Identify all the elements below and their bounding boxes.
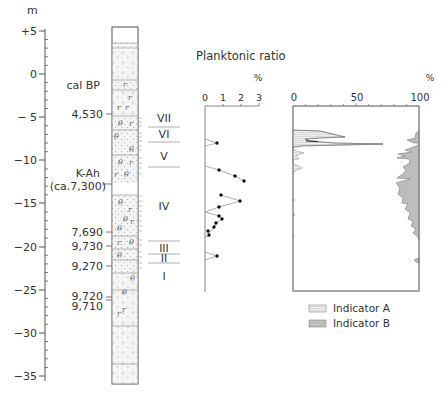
- depth-tick-label: −10: [14, 154, 37, 167]
- planktonic-unit: %: [254, 73, 263, 83]
- figure: m +5 0 − 5 −10 −15 −20 −25 −30 −35: [0, 0, 448, 400]
- depth-tick-label: 0: [30, 68, 37, 81]
- indicator-tick-label: 0: [291, 92, 297, 103]
- unit-zones: VII VI V IV III II I: [148, 112, 180, 283]
- unit-label: II: [161, 252, 168, 265]
- depth-unit-label: m: [27, 4, 38, 17]
- depth-tick-label: −25: [14, 284, 37, 297]
- date-label: 7,690: [72, 226, 104, 239]
- date-labels: cal BP 4,530 K-Ah (ca.7,300) 7,690 9,730…: [50, 79, 112, 313]
- svg-text:θ: θ: [118, 119, 123, 128]
- svg-text:r.: r.: [117, 238, 123, 247]
- date-label: 9,710: [72, 300, 104, 313]
- depth-tick-label: − 5: [17, 111, 37, 124]
- stratigraphic-column: r rrr θr θθ θr rθ θr θrθ r.θ θθ θ rr: [112, 27, 142, 384]
- legend: Indicator A Indicator B: [309, 302, 391, 329]
- svg-text:θ: θ: [117, 224, 122, 233]
- cal-bp-header: cal BP: [66, 79, 100, 92]
- legend-swatch-indicator-a: [309, 305, 326, 312]
- svg-text:θ: θ: [129, 145, 134, 154]
- date-label: 4,530: [72, 108, 104, 121]
- planktonic-ratio-chart: Planktonic ratio % 0 1 2 3: [196, 49, 286, 292]
- unit-label: VII: [157, 112, 171, 125]
- legend-label: Indicator A: [333, 302, 391, 314]
- svg-text:θ: θ: [124, 170, 129, 179]
- legend-label: Indicator B: [333, 317, 390, 329]
- svg-text:θ: θ: [114, 132, 119, 141]
- unit-label: IV: [159, 200, 170, 213]
- unit-label: VI: [159, 128, 170, 141]
- depth-tick-label: −35: [14, 370, 37, 383]
- date-label: 9,270: [72, 260, 104, 273]
- indicator-chart: % 0 50 100: [291, 73, 435, 291]
- planktonic-title: Planktonic ratio: [196, 49, 286, 63]
- svg-text:θ: θ: [118, 198, 123, 207]
- legend-swatch-indicator-b: [309, 320, 326, 327]
- indicator-tick-label: 50: [351, 92, 364, 103]
- planktonic-points: [206, 141, 245, 257]
- svg-text:θ: θ: [123, 215, 128, 224]
- date-label: (ca.7,300): [50, 180, 106, 193]
- svg-text:θ: θ: [117, 251, 122, 260]
- planktonic-tick-label: 2: [238, 92, 244, 103]
- depth-axis: m +5 0 − 5 −10 −15 −20 −25 −30 −35: [14, 4, 48, 383]
- unit-label: I: [162, 270, 165, 283]
- svg-text:θ: θ: [122, 288, 127, 297]
- indicator-unit: %: [426, 73, 435, 83]
- planktonic-tick-label: 1: [220, 92, 226, 103]
- depth-tick-label: −15: [14, 197, 37, 210]
- unit-label: V: [160, 150, 168, 163]
- depth-tick-label: −30: [14, 327, 37, 340]
- svg-text:θ: θ: [130, 274, 135, 283]
- svg-text:θ: θ: [118, 158, 123, 167]
- indicator-tick-label: 100: [410, 92, 429, 103]
- depth-tick-label: −20: [14, 241, 37, 254]
- depth-tick-label: +5: [21, 25, 37, 38]
- planktonic-tick-label: 3: [256, 92, 262, 103]
- date-label: 9,730: [72, 240, 104, 253]
- date-label: K-Ah: [76, 167, 100, 180]
- planktonic-tick-label: 0: [202, 92, 208, 103]
- svg-text:θ: θ: [129, 238, 134, 247]
